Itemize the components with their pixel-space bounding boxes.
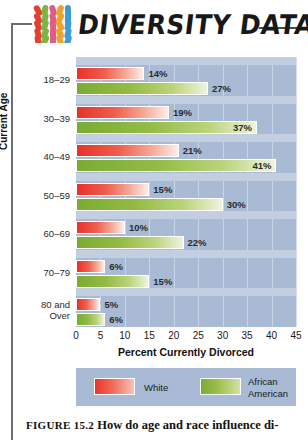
legend-label-white: White xyxy=(144,382,168,393)
bar-white xyxy=(76,183,149,196)
bar-value-label: 5% xyxy=(104,298,118,311)
bar-value-label: 19% xyxy=(173,106,192,119)
bar-value-label: 15% xyxy=(153,183,172,196)
x-axis-tick: 20 xyxy=(162,330,186,341)
bar-group: 10%22% xyxy=(76,211,296,250)
bar-white xyxy=(76,221,125,234)
bar-value-label: 6% xyxy=(109,260,123,273)
african-american-swatch xyxy=(200,378,241,395)
bar-african-american xyxy=(76,82,208,95)
bar-value-label: 6% xyxy=(109,313,123,326)
bar-white xyxy=(76,67,144,80)
y-axis-label: 70–79 xyxy=(0,267,70,278)
bar-group: 6%15% xyxy=(76,250,296,289)
bar-african-american xyxy=(76,198,223,211)
diversity-people-grid-icon xyxy=(32,3,74,43)
y-axis-label: 60–69 xyxy=(0,228,70,239)
diversity-data-figure: DIVERSITY DATA 14%27%19%37%21%41%15%30%1… xyxy=(0,0,308,440)
bar-white xyxy=(76,106,169,119)
x-axis-tick: 5 xyxy=(88,330,112,341)
legend-label-african-american-line2: American xyxy=(248,388,288,399)
bar-value-label: 15% xyxy=(153,275,172,288)
bar-african-american xyxy=(76,121,257,134)
bar-group: 15%30% xyxy=(76,173,296,212)
x-axis-title: Percent Currently Divorced xyxy=(76,346,296,358)
bar-value-label: 30% xyxy=(227,198,246,211)
bar-value-label: 41% xyxy=(252,159,271,172)
bar-african-american xyxy=(76,275,149,288)
bar-value-label: 14% xyxy=(148,67,167,80)
bar-value-label: 27% xyxy=(212,82,231,95)
bar-white xyxy=(76,144,179,157)
y-axis-label: 18–29 xyxy=(0,74,70,85)
x-axis-tick: 10 xyxy=(113,330,137,341)
legend-label-african-american-line1: African xyxy=(248,376,278,387)
bar-african-american xyxy=(76,159,276,172)
bar-african-american xyxy=(76,313,105,326)
bar-group: 21%41% xyxy=(76,134,296,173)
x-axis-tick: 25 xyxy=(186,330,210,341)
bar-group: 14%27% xyxy=(76,57,296,96)
white-swatch xyxy=(94,378,135,395)
bar-value-label: 21% xyxy=(183,144,202,157)
bar-group: 19%37% xyxy=(76,96,296,135)
bar-value-label: 37% xyxy=(233,121,252,134)
bar-african-american xyxy=(76,236,184,249)
x-axis-tick: 45 xyxy=(284,330,308,341)
chart-plot-area: 14%27%19%37%21%41%15%30%10%22%6%15%5%6% xyxy=(76,57,296,327)
bar-white xyxy=(76,260,105,273)
x-axis-tick: 0 xyxy=(64,330,88,341)
gridline xyxy=(296,57,297,327)
bar-value-label: 22% xyxy=(188,236,207,249)
x-axis-tick: 30 xyxy=(211,330,235,341)
bar-white xyxy=(76,298,100,311)
figure-caption: FIGURE 15.2 How do age and race influenc… xyxy=(26,418,300,432)
y-axis-label: 50–59 xyxy=(0,190,70,201)
bar-value-label: 10% xyxy=(129,221,148,234)
x-axis-tick: 35 xyxy=(235,330,259,341)
figure-number: FIGURE 15.2 xyxy=(26,419,94,431)
figure-title: DIVERSITY DATA xyxy=(75,4,260,45)
x-axis-tick: 40 xyxy=(260,330,284,341)
y-axis-label: 30–39 xyxy=(0,113,70,124)
figure-header: DIVERSITY DATA xyxy=(0,0,308,52)
bar-group: 5%6% xyxy=(76,288,296,327)
chart-legend: White African American xyxy=(76,368,296,406)
y-axis-label: 40–49 xyxy=(0,151,70,162)
y-axis-title: Current Age xyxy=(0,93,9,150)
y-axis-label: 80 andOver xyxy=(0,299,70,321)
figure-caption-text: How do age and race influence di- xyxy=(97,418,278,432)
x-axis-tick: 15 xyxy=(137,330,161,341)
